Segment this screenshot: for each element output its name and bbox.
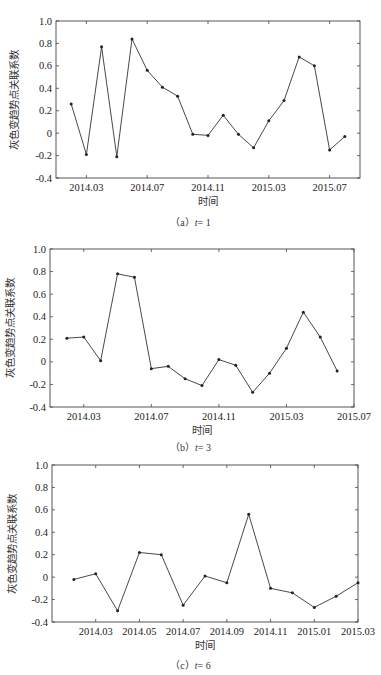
data-point-c: [204, 575, 207, 578]
data-point-a: [222, 114, 225, 117]
x-tick-label-b: 2015.07: [337, 411, 371, 422]
caption-a-value: = 1: [198, 217, 211, 228]
data-point-b: [82, 336, 85, 339]
data-point-a: [252, 146, 255, 149]
data-point-a: [115, 155, 118, 158]
y-tick-label-c: 0.8: [35, 482, 48, 493]
data-point-c: [335, 595, 338, 598]
x-tick-label-c: 2015.03: [341, 626, 375, 637]
data-point-b: [150, 367, 153, 370]
y-tick-label-b: 0.2: [33, 334, 46, 345]
data-point-b: [65, 337, 68, 340]
y-tick-label-c: -0.2: [31, 594, 48, 605]
line-chart-c: -0.4-0.200.20.40.60.81.02014.032014.0520…: [0, 450, 381, 675]
data-point-c: [160, 553, 163, 556]
data-point-a: [267, 119, 270, 122]
y-tick-label-c: 0.2: [35, 549, 48, 560]
y-tick-label-c: 0.6: [35, 504, 48, 515]
line-chart-b: -0.4-0.200.20.40.60.81.02014.032014.0720…: [0, 232, 381, 450]
x-axis-label-a: 时间: [198, 195, 218, 207]
data-point-a: [85, 153, 88, 156]
y-tick-label-c: 1.0: [35, 460, 48, 471]
data-point-b: [184, 377, 187, 380]
x-axis-label-b: 时间: [192, 424, 212, 436]
data-point-c: [94, 572, 97, 575]
x-tick-label-a: 2014.11: [191, 182, 225, 193]
data-point-a: [343, 135, 346, 138]
plot-frame-a: [56, 21, 360, 178]
x-tick-label-c: 2014.11: [254, 626, 288, 637]
data-point-b: [99, 359, 102, 362]
y-tick-label-c: 0: [43, 572, 48, 583]
data-point-b: [234, 364, 237, 367]
x-tick-label-c: 2014.03: [79, 626, 113, 637]
data-point-a: [161, 86, 164, 89]
data-point-c: [116, 609, 119, 612]
data-point-b: [133, 276, 136, 279]
series-line-a: [71, 39, 345, 157]
y-tick-label-b: 0.4: [33, 311, 47, 322]
x-tick-label-c: 2015.01: [297, 626, 331, 637]
data-point-a: [283, 99, 286, 102]
y-axis-label-c: 灰色变趋势点关联系数: [6, 493, 18, 594]
data-point-b: [336, 369, 339, 372]
data-point-a: [237, 133, 240, 136]
y-tick-label-a: 0.6: [39, 60, 52, 71]
caption-a-prefix: （a）: [170, 217, 194, 228]
data-point-a: [70, 102, 73, 105]
x-tick-label-b: 2014.07: [134, 411, 168, 422]
data-point-a: [207, 134, 210, 137]
series-line-b: [67, 274, 337, 392]
data-point-a: [298, 55, 301, 58]
series-line-c: [74, 514, 358, 610]
data-point-a: [131, 37, 134, 40]
y-tick-label-b: 0.6: [33, 289, 46, 300]
data-point-c: [269, 587, 272, 590]
x-tick-label-c: 2014.09: [210, 626, 244, 637]
data-point-b: [285, 347, 288, 350]
caption-c-value: = 6: [198, 660, 211, 671]
x-tick-label-a: 2014.03: [69, 182, 103, 193]
y-tick-label-b: 0.8: [33, 266, 46, 277]
data-point-a: [191, 133, 194, 136]
y-tick-label-c: -0.4: [31, 617, 48, 628]
plot-frame-b: [50, 249, 354, 407]
chart-panel-b: -0.4-0.200.20.40.60.81.02014.032014.0720…: [0, 232, 381, 450]
x-axis-label-c: 时间: [195, 639, 215, 651]
x-tick-label-b: 2015.03: [269, 411, 303, 422]
x-tick-label-a: 2015.03: [252, 182, 286, 193]
data-point-b: [116, 272, 119, 275]
data-point-c: [72, 578, 75, 581]
x-tick-label-c: 2014.07: [166, 626, 200, 637]
data-point-b: [251, 391, 254, 394]
data-point-b: [167, 365, 170, 368]
data-point-a: [176, 95, 179, 98]
data-point-b: [302, 311, 305, 314]
data-point-b: [268, 372, 271, 375]
x-tick-label-a: 2015.07: [313, 182, 347, 193]
y-tick-label-a: 0.2: [39, 105, 52, 116]
y-tick-label-c: 0.4: [35, 527, 49, 538]
caption-c-prefix: （c）: [170, 660, 194, 671]
data-point-a: [146, 69, 149, 72]
y-tick-label-b: -0.2: [29, 379, 46, 390]
x-tick-label-b: 2014.11: [202, 411, 236, 422]
data-point-a: [100, 45, 103, 48]
data-point-a: [313, 64, 316, 67]
y-axis-label-a: 灰色变趋势点关联系数: [8, 49, 20, 150]
data-point-c: [182, 604, 185, 607]
data-point-b: [201, 384, 204, 387]
x-tick-label-c: 2014.05: [122, 626, 156, 637]
y-tick-label-a: 1.0: [39, 16, 52, 27]
data-point-c: [138, 551, 141, 554]
data-point-c: [313, 606, 316, 609]
line-chart-a: -0.4-0.200.20.40.60.81.02014.032014.0720…: [0, 0, 381, 232]
x-tick-label-b: 2014.03: [67, 411, 101, 422]
data-point-c: [247, 513, 250, 516]
data-point-c: [225, 581, 228, 584]
x-tick-label-a: 2014.07: [130, 182, 164, 193]
caption-a: （a）t= 1: [0, 214, 381, 229]
data-point-c: [357, 581, 360, 584]
plot-frame-c: [52, 465, 358, 622]
data-point-b: [217, 358, 220, 361]
